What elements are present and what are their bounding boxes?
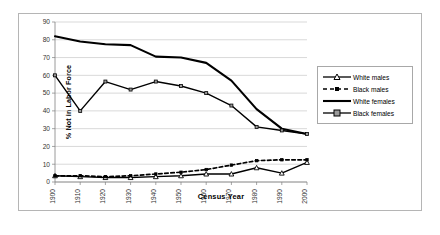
series-marker	[180, 171, 182, 173]
series-marker	[54, 175, 56, 177]
legend-label-black-males: Black males	[353, 86, 389, 93]
y-tick-label: 70	[43, 54, 51, 61]
series-marker	[280, 129, 283, 132]
series-marker	[54, 74, 57, 77]
legend-swatch-white-males	[322, 72, 352, 82]
series-marker	[205, 168, 207, 170]
series-marker	[306, 133, 309, 136]
series-marker	[104, 175, 106, 177]
legend-swatch-black-males	[322, 84, 352, 94]
series-marker	[129, 88, 132, 91]
y-tick-label: 50	[43, 89, 51, 96]
chart-legend: White males Black males White females Bl…	[317, 66, 413, 124]
y-tick-label: 30	[43, 125, 51, 132]
legend-item-black-males: Black males	[322, 83, 408, 95]
series-marker	[230, 104, 233, 107]
y-tick-label: 90	[43, 18, 51, 25]
series-marker	[229, 172, 234, 176]
series-marker	[79, 109, 82, 112]
series-marker	[306, 159, 308, 161]
y-tick-label: 40	[43, 107, 51, 114]
series-marker	[154, 80, 157, 83]
legend-item-white-females: White females	[322, 95, 408, 107]
series-marker	[129, 175, 131, 177]
chart-figure: % Not in Labor Force 0102030405060708090…	[18, 13, 422, 211]
series-marker	[255, 125, 258, 128]
series-marker	[79, 175, 81, 177]
legend-swatch-black-females	[322, 108, 352, 118]
series-marker	[179, 173, 184, 177]
y-tick-label: 80	[43, 36, 51, 43]
y-tick-label: 0	[46, 178, 50, 185]
series-marker	[204, 172, 209, 176]
series-marker	[104, 80, 107, 83]
legend-label-black-females: Black females	[353, 110, 394, 117]
y-tick-label: 20	[43, 143, 51, 150]
series-marker	[255, 159, 257, 161]
legend-label-white-females: White females	[353, 98, 395, 105]
series-marker	[155, 173, 157, 175]
legend-item-black-females: Black females	[322, 107, 408, 119]
series-marker	[230, 164, 232, 166]
series-marker	[254, 165, 259, 169]
series-marker	[281, 159, 283, 161]
legend-item-white-males: White males	[322, 71, 408, 83]
series-marker	[180, 85, 183, 88]
legend-label-white-males: White males	[353, 74, 389, 81]
series-marker	[205, 92, 208, 95]
series-marker	[279, 171, 284, 175]
x-axis-title: Census Year	[19, 192, 423, 201]
y-tick-label: 60	[43, 72, 51, 79]
y-tick-label: 10	[43, 161, 51, 168]
legend-swatch-white-females	[322, 96, 352, 106]
